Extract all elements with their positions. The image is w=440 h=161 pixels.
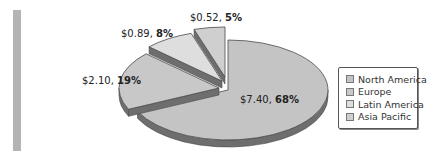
legend-item-latin-america: Latin America (346, 98, 417, 111)
legend-label: Latin America (358, 99, 424, 110)
label-europe: $2.10, 19% (82, 75, 141, 86)
legend-label: Europe (358, 86, 391, 97)
legend-swatch-icon (346, 113, 354, 121)
chart-legend: North America Europe Latin America Asia … (338, 67, 418, 129)
legend-swatch-icon (346, 88, 354, 96)
legend-swatch-icon (346, 75, 354, 83)
label-north-america: $7.40, 68% (240, 94, 299, 105)
legend-item-europe: Europe (346, 86, 417, 99)
label-latin-america: $0.89, 8% (121, 28, 173, 39)
legend-item-asia-pacific: Asia Pacific (346, 111, 417, 124)
legend-label: North America (358, 74, 427, 85)
legend-label: Asia Pacific (358, 111, 411, 122)
label-asia-pacific: $0.52, 5% (190, 12, 242, 23)
legend-swatch-icon (346, 100, 354, 108)
legend-item-north-america: North America (346, 73, 417, 86)
